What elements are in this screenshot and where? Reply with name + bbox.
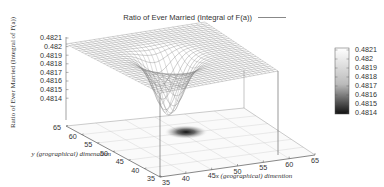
projection-hotspot <box>164 125 208 139</box>
colorbar-tick-label: 0.4821 <box>355 45 377 54</box>
x-tick-label: 45 <box>208 171 216 180</box>
base-plane <box>66 108 315 177</box>
colorbar-tick-label: 0.4814 <box>355 108 377 117</box>
x-tick-label: 65 <box>311 156 319 165</box>
y-tick-label: 35 <box>147 174 155 183</box>
legend: Ratio of Ever Married (Integral of F(a)) <box>123 13 286 22</box>
z-axis-label: Ratio of Ever Married (Integral of F(a)) <box>9 16 17 128</box>
colorbar-tick-label: 0.4816 <box>355 90 377 99</box>
z-axis: 0.48210.4820.48190.48180.48170.48160.481… <box>40 33 68 120</box>
y-tick-label: 40 <box>131 166 139 175</box>
colorbar-tick-label: 0.4815 <box>355 99 377 108</box>
z-tick-label: 0.4814 <box>40 94 62 103</box>
surface-plot: Ratio of Ever Married (Integral of F(a))… <box>0 0 384 187</box>
y-tick-label: 60 <box>69 132 77 141</box>
y-tick-label: 45 <box>116 157 124 166</box>
colorbar-tick-label: 0.4817 <box>355 81 377 90</box>
chart-title: Ratio of Ever Married (Integral of F(a)) <box>123 13 252 22</box>
y-axis-label: y (grographical) dimenation <box>31 150 112 158</box>
y-tick-label: 65 <box>53 123 61 132</box>
x-tick-label: 35 <box>162 178 170 187</box>
x-tick-label: 40 <box>182 174 190 183</box>
x-axis-label: x (geographical) dimention <box>215 172 293 180</box>
surface-mesh <box>66 22 278 115</box>
x-tick-label: 60 <box>285 160 293 169</box>
colorbar-tick-label: 0.482 <box>355 54 373 63</box>
y-tick-label: 55 <box>84 140 92 149</box>
colorbar-tick-label: 0.4819 <box>355 63 377 72</box>
colorbar: 0.48210.4820.48190.48180.48170.48160.481… <box>335 45 377 117</box>
x-tick-label: 55 <box>259 163 267 172</box>
colorbar-tick-label: 0.4818 <box>355 72 377 81</box>
